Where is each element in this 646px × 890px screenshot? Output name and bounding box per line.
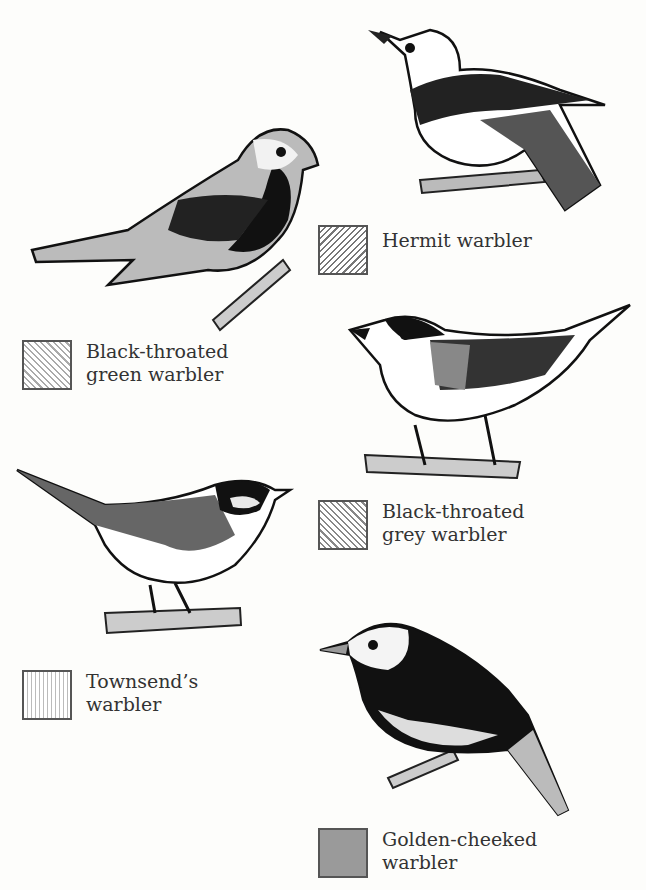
- golden-cheeked-warbler-label: Golden-cheeked warbler: [382, 828, 537, 874]
- hermit-warbler-illustration: [360, 10, 620, 220]
- black-throated-grey-warbler-illustration: [345, 300, 635, 490]
- legend-townsends-warbler: Townsend’s warbler: [22, 670, 198, 720]
- black-throated-green-warbler-swatch: [22, 340, 72, 390]
- black-throated-grey-warbler-label: Black-throated grey warbler: [382, 500, 524, 546]
- legend-black-throated-green-warbler: Black-throated green warbler: [22, 340, 228, 390]
- townsends-warbler-illustration: [15, 465, 295, 645]
- townsends-warbler-swatch: [22, 670, 72, 720]
- golden-cheeked-warbler-illustration: [318, 610, 588, 820]
- black-throated-green-warbler-illustration: [28, 120, 328, 340]
- black-throated-grey-warbler-swatch: [318, 500, 368, 550]
- legend-golden-cheeked-warbler: Golden-cheeked warbler: [318, 828, 537, 878]
- golden-cheeked-warbler-swatch: [318, 828, 368, 878]
- legend-black-throated-grey-warbler: Black-throated grey warbler: [318, 500, 524, 550]
- legend-hermit-warbler: Hermit warbler: [318, 225, 532, 275]
- hermit-warbler-label: Hermit warbler: [382, 229, 532, 252]
- townsends-warbler-label: Townsend’s warbler: [86, 670, 198, 716]
- black-throated-green-warbler-label: Black-throated green warbler: [86, 340, 228, 386]
- hermit-warbler-swatch: [318, 225, 368, 275]
